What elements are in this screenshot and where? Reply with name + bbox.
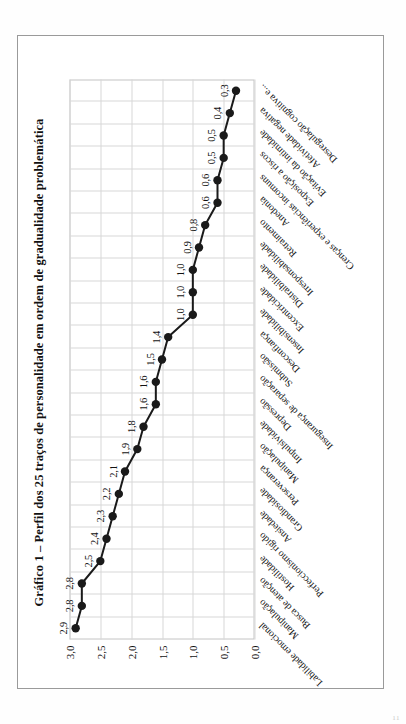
data-point-label: 2,2: [100, 487, 111, 500]
data-point-marker: [213, 198, 221, 206]
data-point-label: 2,3: [94, 510, 105, 523]
y-axis-tick-label: 1,0: [186, 645, 198, 659]
data-point-label: 2,4: [88, 532, 99, 545]
data-point-label: 1,4: [150, 330, 161, 343]
data-point-marker: [77, 601, 85, 609]
data-point-label: 0,6: [199, 174, 210, 187]
scanned-page: Gráfico 1 – Perfil dos 25 traços de pers…: [0, 0, 406, 724]
data-point-marker: [194, 243, 202, 251]
plot-area: 3,02,52,01,51,00,50,0 2,92,82,82,52,42,3…: [69, 79, 254, 639]
data-point-label: 1,6: [137, 375, 148, 388]
data-point-marker: [188, 265, 196, 273]
data-point-label: 0,5: [205, 129, 216, 142]
data-point-marker: [219, 153, 227, 161]
y-axis-tick-label: 2,5: [94, 645, 106, 659]
y-axis-tick-label: 1,5: [156, 645, 168, 659]
data-point-label: 0,3: [218, 84, 229, 97]
data-point-marker: [96, 556, 104, 564]
y-axis-tick-label: 0,0: [248, 645, 260, 659]
data-point-marker: [219, 131, 227, 139]
data-point-label: 1,9: [119, 442, 130, 455]
data-series: [69, 79, 254, 639]
y-axis-tick-label: 2,0: [125, 645, 137, 659]
data-point-marker: [213, 176, 221, 184]
data-point-label: 1,8: [125, 420, 136, 433]
y-axis-tick-label: 3,0: [63, 645, 75, 659]
data-point-label: 1,5: [144, 353, 155, 366]
category-axis-labels: Labilidade emocionalManipulaçãoBusca de …: [254, 79, 374, 639]
data-point-marker: [151, 400, 159, 408]
data-point-label: 2,8: [63, 577, 74, 590]
figure-title: Gráfico 1 – Perfil dos 25 traços de pers…: [31, 49, 47, 675]
data-point-label: 0,6: [199, 196, 210, 209]
data-point-marker: [151, 377, 159, 385]
data-point-label: 0,4: [211, 106, 222, 119]
data-point-marker: [157, 355, 165, 363]
page-folio: 11: [392, 714, 400, 722]
data-point-marker: [225, 108, 233, 116]
data-point-marker: [102, 534, 110, 542]
data-point-marker: [108, 512, 116, 520]
data-point-label: 2,9: [57, 622, 68, 635]
data-point-label: 2,5: [82, 554, 93, 567]
data-point-marker: [114, 489, 122, 497]
data-point-label: 0,5: [205, 151, 216, 164]
data-point-label: 1,0: [174, 308, 185, 321]
data-point-label: 0,8: [187, 218, 198, 231]
y-axis-tick-label: 0,5: [217, 645, 229, 659]
data-point-marker: [231, 86, 239, 94]
figure-content: Gráfico 1 – Perfil dos 25 traços de pers…: [17, 35, 384, 689]
data-point-label: 1,0: [174, 263, 185, 276]
data-point-marker: [71, 624, 79, 632]
data-point-label: 2,8: [63, 599, 74, 612]
data-point-label: 1,6: [137, 398, 148, 411]
data-point-label: 2,1: [107, 465, 118, 478]
data-point-marker: [188, 288, 196, 296]
figure-rotated-container: Gráfico 1 – Perfil dos 25 traços de pers…: [17, 35, 384, 689]
series-line: [75, 90, 235, 628]
data-point-label: 1,0: [174, 286, 185, 299]
data-point-label: 0,9: [181, 241, 192, 254]
data-point-marker: [133, 444, 141, 452]
